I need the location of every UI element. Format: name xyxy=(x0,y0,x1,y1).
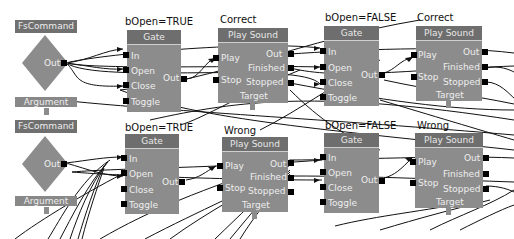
playsound-finished-pin[interactable] xyxy=(288,65,294,71)
gate-out-pin[interactable] xyxy=(179,179,185,185)
gate-in-pin[interactable] xyxy=(320,154,326,160)
playsound-out-pin[interactable] xyxy=(482,49,488,55)
gate-open-label: Open xyxy=(328,63,352,73)
target-stub[interactable] xyxy=(446,101,451,108)
playsound-header: Play Sound xyxy=(222,137,288,152)
playsound-play-label: Play xyxy=(225,161,244,171)
fscommand-out-pin[interactable] xyxy=(61,161,67,167)
playsound-stop-label: Stop xyxy=(418,178,438,188)
target-stub[interactable] xyxy=(250,103,255,110)
playsound-out-pin[interactable] xyxy=(288,160,294,166)
argument-stub[interactable] xyxy=(44,108,49,115)
playsound-stopped-pin[interactable] xyxy=(483,186,489,192)
playsound-stop-pin[interactable] xyxy=(410,180,416,186)
playsound-target-label: Target xyxy=(436,90,464,100)
gate-title: bOpen=FALSE xyxy=(325,12,396,23)
target-stub[interactable] xyxy=(446,208,451,215)
playsound-header: Play Sound xyxy=(218,28,288,43)
playsound-stop-pin[interactable] xyxy=(213,77,219,83)
playsound-finished-label: Finished xyxy=(443,169,480,179)
playsound-stopped-pin[interactable] xyxy=(288,80,294,86)
playsound-stopped-pin[interactable] xyxy=(288,189,294,195)
fscommand-out-label: Out xyxy=(44,159,60,169)
playsound-play-pin[interactable] xyxy=(410,159,416,165)
playsound-finished-pin[interactable] xyxy=(482,64,488,70)
gate-out-label: Out xyxy=(162,177,178,187)
gate-in-pin[interactable] xyxy=(320,48,326,54)
gate-toggle-pin[interactable] xyxy=(320,94,326,100)
gate-open-pin[interactable] xyxy=(320,64,326,70)
gate-close-pin[interactable] xyxy=(320,184,326,190)
target-stub[interactable] xyxy=(252,212,257,219)
gate-close-pin[interactable] xyxy=(123,82,129,88)
playsound-stop-label: Stop xyxy=(221,75,241,85)
gate-toggle-pin[interactable] xyxy=(123,98,129,104)
gate-out-pin[interactable] xyxy=(379,72,385,78)
gate-in-label: In xyxy=(131,51,139,61)
playsound-play-pin[interactable] xyxy=(217,163,223,169)
gate-toggle-label: Toggle xyxy=(328,93,357,103)
gate-close-label: Close xyxy=(328,78,353,88)
playsound-finished-label: Finished xyxy=(248,63,285,73)
gate-header: Gate xyxy=(127,30,181,45)
playsound-finished-label: Finished xyxy=(443,62,480,72)
gate-toggle-label: Toggle xyxy=(129,200,158,210)
gate-open-pin[interactable] xyxy=(123,67,129,73)
gate-toggle-label: Toggle xyxy=(328,198,357,208)
gate-open-pin[interactable] xyxy=(121,170,127,176)
gate-out-pin[interactable] xyxy=(379,178,385,184)
playsound-stopped-label: Stopped xyxy=(443,184,480,194)
gate-open-label: Open xyxy=(328,168,352,178)
gate-open-pin[interactable] xyxy=(320,169,326,175)
playsound-finished-label: Finished xyxy=(250,172,287,182)
playsound-title: Wrong xyxy=(417,120,449,131)
gate-close-label: Close xyxy=(328,183,353,193)
playsound-finished-pin[interactable] xyxy=(483,171,489,177)
playsound-header: Play Sound xyxy=(416,26,482,41)
gate-toggle-label: Toggle xyxy=(131,97,160,107)
gate-close-label: Close xyxy=(129,185,154,195)
playsound-title: Correct xyxy=(417,12,454,23)
playsound-stopped-label: Stopped xyxy=(248,186,285,196)
gate-in-pin[interactable] xyxy=(123,52,129,58)
playsound-out-pin[interactable] xyxy=(483,155,489,161)
gate-header: Gate xyxy=(324,133,379,148)
playsound-out-pin[interactable] xyxy=(288,51,294,57)
playsound-play-label: Play xyxy=(221,53,240,63)
fscommand-out-pin[interactable] xyxy=(61,60,67,66)
playsound-target-label: Target xyxy=(242,200,270,210)
playsound-play-pin[interactable] xyxy=(213,55,219,61)
gate-out-label: Out xyxy=(163,73,179,83)
fscommand-header[interactable]: FsCommand xyxy=(15,120,77,133)
playsound-play-label: Play xyxy=(418,157,437,167)
gate-close-pin[interactable] xyxy=(121,186,127,192)
playsound-out-label: Out xyxy=(266,49,282,59)
gate-header: Gate xyxy=(125,134,179,149)
gate-in-label: In xyxy=(328,153,336,163)
gate-out-pin[interactable] xyxy=(181,76,187,82)
fscommand-header[interactable]: FsCommand xyxy=(15,20,77,33)
playsound-stopped-label: Stopped xyxy=(246,77,283,87)
gate-toggle-pin[interactable] xyxy=(320,199,326,205)
gate-close-pin[interactable] xyxy=(320,79,326,85)
playsound-play-label: Play xyxy=(418,50,437,60)
playsound-header: Play Sound xyxy=(415,133,483,148)
playsound-out-label: Out xyxy=(463,47,479,57)
gate-toggle-pin[interactable] xyxy=(121,201,127,207)
playsound-play-pin[interactable] xyxy=(411,52,417,58)
argument-stub[interactable] xyxy=(44,207,49,214)
fscommand-argument-label: Argument xyxy=(15,196,77,206)
playsound-title: Wrong xyxy=(224,125,256,136)
gate-in-pin[interactable] xyxy=(121,155,127,161)
playsound-stopped-pin[interactable] xyxy=(482,79,488,85)
gate-open-label: Open xyxy=(129,169,153,179)
playsound-stop-pin[interactable] xyxy=(217,185,223,191)
kismet-canvas[interactable]: FsCommand Out Argument bOpen=TRUE Gate I… xyxy=(0,0,514,239)
playsound-title: Correct xyxy=(220,14,257,25)
gate-header: Gate xyxy=(324,26,379,41)
playsound-out-label: Out xyxy=(464,153,480,163)
gate-title: bOpen=FALSE xyxy=(325,120,396,131)
playsound-stop-pin[interactable] xyxy=(411,74,417,80)
gate-open-label: Open xyxy=(131,66,155,76)
playsound-finished-pin[interactable] xyxy=(288,175,294,181)
